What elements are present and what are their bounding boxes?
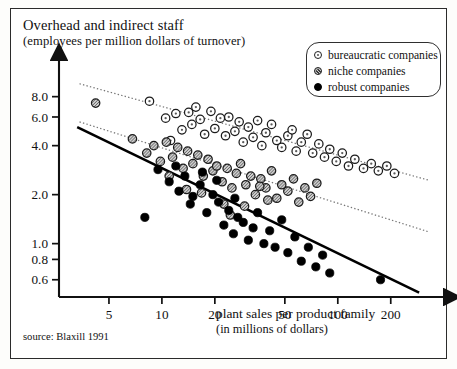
data-point bbox=[189, 159, 197, 167]
y-tick-label: 4.0 bbox=[32, 138, 49, 153]
data-point bbox=[320, 153, 328, 161]
data-point bbox=[244, 236, 252, 244]
data-point bbox=[244, 123, 252, 131]
y-tick-label: 0.8 bbox=[32, 252, 49, 267]
data-point bbox=[192, 103, 200, 111]
data-point bbox=[141, 213, 149, 221]
data-point bbox=[154, 166, 162, 174]
data-point bbox=[367, 159, 375, 167]
data-point bbox=[251, 190, 259, 198]
data-point bbox=[216, 114, 224, 122]
data-point bbox=[223, 164, 231, 172]
data-point bbox=[303, 130, 311, 138]
data-point bbox=[344, 162, 352, 170]
data-point bbox=[220, 221, 228, 229]
x-tick-label: 10 bbox=[155, 307, 169, 322]
data-point bbox=[278, 216, 286, 224]
data-point bbox=[267, 120, 275, 128]
data-point bbox=[260, 240, 268, 248]
data-point bbox=[326, 145, 334, 153]
data-point bbox=[182, 185, 190, 193]
data-point bbox=[258, 141, 266, 149]
data-point bbox=[284, 249, 292, 257]
data-point bbox=[181, 172, 189, 180]
data-point bbox=[225, 113, 233, 121]
data-point bbox=[267, 167, 275, 175]
data-point bbox=[249, 133, 257, 141]
data-point bbox=[271, 243, 279, 251]
data-point bbox=[284, 187, 292, 195]
data-point bbox=[278, 143, 286, 151]
data-point bbox=[291, 233, 299, 241]
data-point bbox=[256, 182, 264, 190]
data-point bbox=[207, 107, 215, 115]
x-axis-title-line2: (in millions of dollars) bbox=[216, 322, 431, 337]
data-point bbox=[232, 169, 240, 177]
data-point bbox=[128, 135, 136, 143]
data-point bbox=[304, 243, 312, 251]
data-point bbox=[273, 194, 281, 202]
data-point bbox=[209, 191, 217, 199]
data-point bbox=[266, 227, 274, 235]
data-point bbox=[221, 132, 229, 140]
figure-frame: Overhead and indirect staff (employees p… bbox=[10, 8, 447, 359]
data-point bbox=[175, 187, 183, 195]
data-point bbox=[91, 99, 99, 107]
data-point bbox=[178, 126, 186, 134]
data-point bbox=[288, 126, 296, 134]
y-tick-label: 1.0 bbox=[32, 236, 49, 251]
data-point bbox=[172, 162, 180, 170]
data-point bbox=[198, 168, 206, 176]
data-point bbox=[165, 178, 173, 186]
data-point bbox=[239, 218, 247, 226]
trendline-robust bbox=[77, 127, 419, 293]
data-point bbox=[313, 179, 321, 187]
data-point bbox=[189, 192, 197, 200]
data-point bbox=[196, 115, 204, 123]
trendline-bureaucratic bbox=[79, 84, 429, 181]
trendlines-layer bbox=[77, 84, 429, 293]
data-points-layer bbox=[91, 97, 398, 284]
data-point bbox=[214, 198, 222, 206]
data-point bbox=[254, 209, 262, 217]
data-point bbox=[264, 196, 272, 204]
data-point bbox=[289, 175, 297, 183]
data-point bbox=[295, 198, 303, 206]
data-point bbox=[211, 124, 219, 132]
data-point bbox=[253, 116, 261, 124]
data-point bbox=[292, 147, 300, 155]
data-point bbox=[390, 169, 398, 177]
y-tick-label: 6.0 bbox=[32, 110, 49, 125]
data-point bbox=[168, 153, 176, 161]
data-point bbox=[239, 138, 247, 146]
data-point bbox=[376, 276, 384, 284]
data-point bbox=[240, 202, 248, 210]
data-point bbox=[229, 230, 237, 238]
data-point bbox=[315, 140, 323, 148]
y-tick-label: 8.0 bbox=[32, 89, 49, 104]
data-point bbox=[197, 189, 205, 197]
data-point bbox=[332, 157, 340, 165]
data-point bbox=[231, 194, 239, 202]
x-axis-title: plant sales per product family (in milli… bbox=[216, 306, 431, 337]
data-point bbox=[188, 120, 196, 128]
data-point bbox=[172, 109, 180, 117]
data-point bbox=[326, 269, 334, 277]
data-point bbox=[359, 164, 367, 172]
y-tick-label: 0.6 bbox=[32, 272, 49, 287]
data-point bbox=[242, 181, 250, 189]
y-tick-label: 2.0 bbox=[32, 187, 49, 202]
data-point bbox=[203, 209, 211, 217]
data-point bbox=[213, 162, 221, 170]
data-point bbox=[213, 176, 221, 184]
data-point bbox=[196, 181, 204, 189]
data-point bbox=[236, 159, 244, 167]
data-point bbox=[309, 149, 317, 157]
data-point bbox=[162, 138, 170, 146]
data-point bbox=[338, 149, 346, 157]
data-point bbox=[301, 184, 309, 192]
data-point bbox=[383, 162, 391, 170]
data-point bbox=[374, 167, 382, 175]
data-point bbox=[351, 155, 359, 163]
data-point bbox=[249, 224, 257, 232]
